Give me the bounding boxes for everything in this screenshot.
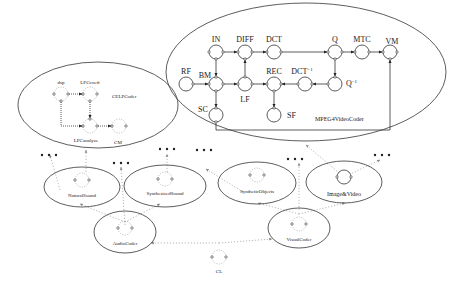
node-in[interactable]: IN bbox=[208, 35, 224, 60]
more-dots-synthsound bbox=[159, 148, 175, 150]
more-dots-audio bbox=[113, 162, 129, 164]
cl-label: CL bbox=[216, 269, 222, 274]
celp-coder-title: CELPCoder bbox=[112, 94, 137, 99]
node-label-lf: LF bbox=[240, 95, 250, 104]
node-vm[interactable]: VM bbox=[382, 37, 399, 60]
audio-coder[interactable]: AudioCoder bbox=[94, 211, 156, 253]
node-label-rec: REC bbox=[266, 67, 282, 76]
synthetic-objects[interactable]: SyntheticObjects bbox=[218, 162, 296, 204]
node-label-in: IN bbox=[212, 35, 221, 44]
edge-syntheticobjects-more bbox=[206, 169, 243, 192]
node-label-lpccoeff: LPCcoeff bbox=[80, 80, 100, 85]
node-label-cm: CM bbox=[114, 140, 122, 145]
node-sf[interactable]: SF bbox=[267, 107, 296, 122]
node-label-sf: SF bbox=[287, 111, 296, 120]
ellipsis-markers bbox=[41, 148, 390, 164]
edge-audiocoder-more bbox=[121, 167, 125, 225]
node-label-mtc: MTC bbox=[353, 35, 370, 44]
node-rf[interactable]: RF bbox=[179, 67, 194, 91]
node-label-q: Q bbox=[332, 35, 338, 44]
node-label-bm: BM bbox=[199, 71, 211, 80]
image-video-label: Image&Video bbox=[327, 191, 361, 197]
natural-sound-label: NaturalSound bbox=[68, 193, 96, 198]
node-label-rf: RF bbox=[181, 67, 191, 76]
node-label-lpcanalyze: LPCanalyze bbox=[74, 138, 99, 143]
hierarchy-diagram: IN DIFF DCT Q MTC VM RF BM LF REC DCT−1 … bbox=[0, 0, 458, 287]
more-dots-imagevideo bbox=[374, 154, 390, 156]
node-q-inverse[interactable]: Q−1 bbox=[327, 76, 358, 91]
node-lpcanalyze[interactable]: LPCanalyze bbox=[74, 118, 99, 143]
mpeg4-video-coder-group: IN DIFF DCT Q MTC VM RF BM LF REC DCT−1 … bbox=[166, 3, 446, 141]
node-dct[interactable]: DCT bbox=[266, 35, 282, 59]
node-label-sc: SC bbox=[198, 105, 208, 114]
celp-coder-ellipse[interactable] bbox=[18, 62, 178, 148]
more-dots-naturalsound bbox=[41, 154, 57, 156]
image-video[interactable]: Image&Video bbox=[306, 161, 382, 203]
node-rec[interactable]: REC bbox=[266, 67, 282, 92]
node-dct-inverse[interactable]: DCT−1 bbox=[291, 67, 313, 91]
celp-coder-group: dsp LPCcoeff LPCanalyze CM CELPCoder bbox=[18, 62, 178, 148]
node-diff[interactable]: DIFF bbox=[236, 35, 254, 60]
node-cm[interactable]: CM bbox=[111, 119, 127, 145]
edge-cl-visualcoder bbox=[219, 239, 272, 243]
node-label-dsp: dsp bbox=[58, 80, 65, 85]
synthesized-sound-label: SynthesizedSound bbox=[147, 191, 184, 196]
more-dots-synthetic bbox=[196, 149, 212, 151]
node-label-vm: VM bbox=[386, 37, 399, 46]
edge-dsp-lpcanalyze bbox=[61, 102, 82, 126]
synthetic-objects-label: SyntheticObjects bbox=[240, 189, 274, 194]
cl-node[interactable]: CL bbox=[211, 250, 227, 274]
node-bm[interactable]: BM bbox=[199, 71, 224, 92]
audio-coder-label: AudioCoder bbox=[113, 241, 138, 246]
natural-sound[interactable]: NaturalSound bbox=[44, 167, 120, 207]
node-lf[interactable]: LF bbox=[237, 76, 253, 104]
node-dsp[interactable]: dsp bbox=[53, 80, 69, 102]
more-dots-visual bbox=[287, 158, 303, 160]
node-label-dct-inverse: DCT−1 bbox=[291, 67, 313, 76]
node-label-q-inverse: Q−1 bbox=[346, 79, 358, 88]
node-label-dct: DCT bbox=[266, 35, 282, 44]
visual-coder-label: VisualCoder bbox=[287, 237, 312, 242]
synthesized-sound[interactable]: SynthesizedSound bbox=[124, 165, 206, 207]
node-label-diff: DIFF bbox=[236, 35, 254, 44]
mpeg4-video-coder-title: MPEG4VideoCoder bbox=[315, 116, 364, 122]
node-sc[interactable]: SC bbox=[198, 105, 223, 123]
node-q[interactable]: Q bbox=[327, 35, 343, 60]
node-lpccoeff[interactable]: LPCcoeff bbox=[80, 80, 100, 102]
node-mtc[interactable]: MTC bbox=[353, 35, 370, 59]
